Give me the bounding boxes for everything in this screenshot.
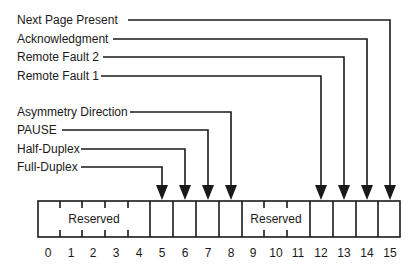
label-pause: PAUSE bbox=[17, 123, 57, 137]
arrowheads bbox=[156, 185, 396, 200]
label-remote-fault-1: Remote Fault 1 bbox=[17, 69, 99, 83]
label-half-duplex: Half-Duplex bbox=[17, 142, 80, 156]
bit-number: 9 bbox=[242, 246, 264, 260]
label-full-duplex: Full-Duplex bbox=[17, 160, 78, 174]
reserved-label-9-11: Reserved bbox=[242, 212, 310, 226]
leader-half-duplex bbox=[81, 149, 185, 192]
leader-remote-fault-2 bbox=[103, 57, 344, 192]
arrow-down-icon bbox=[202, 185, 214, 200]
arrow-down-icon bbox=[384, 185, 396, 200]
arrow-down-icon bbox=[315, 185, 327, 200]
bit-number: 2 bbox=[82, 246, 104, 260]
label-remote-fault-2: Remote Fault 2 bbox=[17, 50, 99, 64]
leader-full-duplex bbox=[81, 167, 162, 192]
bit-number: 14 bbox=[356, 246, 378, 260]
arrow-down-icon bbox=[179, 185, 191, 200]
bit-number: 1 bbox=[60, 246, 82, 260]
bit-number: 8 bbox=[220, 246, 242, 260]
bit-number: 10 bbox=[265, 246, 287, 260]
arrow-down-icon bbox=[361, 185, 373, 200]
reserved-label-0-4: Reserved bbox=[38, 212, 150, 226]
label-asymmetry-direction: Asymmetry Direction bbox=[17, 105, 128, 119]
arrow-down-icon bbox=[225, 185, 237, 200]
leader-pause bbox=[62, 130, 208, 192]
bit-number: 0 bbox=[37, 246, 59, 260]
bit-number: 11 bbox=[287, 246, 309, 260]
arrow-down-icon bbox=[338, 185, 350, 200]
bit-number: 5 bbox=[151, 246, 173, 260]
leader-remote-fault-1 bbox=[101, 76, 321, 192]
label-next-page-present: Next Page Present bbox=[17, 13, 118, 27]
label-acknowledgment: Acknowledgment bbox=[17, 32, 108, 46]
bit-number: 15 bbox=[379, 246, 401, 260]
leader-acknowledgment bbox=[113, 39, 367, 192]
bit-number: 12 bbox=[310, 246, 332, 260]
leader-asymmetry bbox=[130, 112, 231, 192]
bit-number: 7 bbox=[197, 246, 219, 260]
bit-number: 13 bbox=[333, 246, 355, 260]
bit-number: 4 bbox=[128, 246, 150, 260]
bit-number: 6 bbox=[174, 246, 196, 260]
arrow-down-icon bbox=[156, 185, 168, 200]
bit-number: 3 bbox=[105, 246, 127, 260]
leader-next-page bbox=[128, 20, 390, 192]
